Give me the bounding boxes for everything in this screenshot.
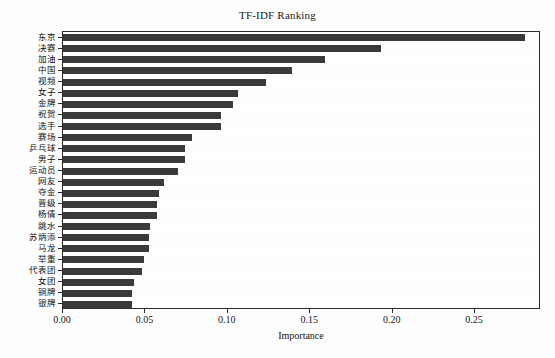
bar-13 xyxy=(63,168,178,175)
y-tick-label: 祝贺 xyxy=(38,109,56,119)
bar-fill xyxy=(63,301,132,308)
bar-fill xyxy=(63,134,192,141)
bar-fill xyxy=(63,179,164,186)
bar-6 xyxy=(63,90,238,97)
y-tick-label: 举重 xyxy=(38,254,56,264)
bar-fill xyxy=(63,290,132,297)
bar-fill xyxy=(63,279,134,286)
x-tick-mark xyxy=(474,309,475,313)
bar-15 xyxy=(63,190,159,197)
bar-fill xyxy=(63,67,292,74)
y-tick-label: 加油 xyxy=(38,54,56,64)
y-tick-label: 马龙 xyxy=(38,243,56,253)
x-axis-label: Importance xyxy=(62,330,540,341)
bar-fill xyxy=(63,168,178,175)
bar-20 xyxy=(63,245,149,252)
bar-fill xyxy=(63,190,159,197)
bar-fill xyxy=(63,34,525,41)
y-tick-label: 东京 xyxy=(38,32,56,42)
y-tick-label: 金牌 xyxy=(38,98,56,108)
x-tick-mark xyxy=(144,309,145,313)
plot-area xyxy=(62,31,540,309)
x-tick-mark xyxy=(392,309,393,313)
bar-22 xyxy=(63,268,142,275)
bar-fill xyxy=(63,223,150,230)
bar-fill xyxy=(63,101,233,108)
bar-fill xyxy=(63,234,149,241)
bar-23 xyxy=(63,279,134,286)
y-tick-label: 乒乓球 xyxy=(29,143,56,153)
y-tick-label: 运动员 xyxy=(29,165,56,175)
bar-7 xyxy=(63,101,233,108)
bar-19 xyxy=(63,234,149,241)
y-tick-label: 铜牌 xyxy=(38,287,56,297)
bar-1 xyxy=(63,34,525,41)
y-tick-label: 银牌 xyxy=(38,298,56,308)
y-axis-labels: 东京决赛加油中国视频女子金牌祝贺选手赛场乒乓球男子运动员网友夺金晋级杨倩跳水苏炳… xyxy=(0,31,62,309)
bar-fill xyxy=(63,212,157,219)
bar-16 xyxy=(63,201,157,208)
y-tick-label: 夺金 xyxy=(38,187,56,197)
chart-title: TF-IDF Ranking xyxy=(0,9,555,21)
x-tick-label: 0.10 xyxy=(218,314,236,325)
bar-4 xyxy=(63,67,292,74)
bar-fill xyxy=(63,90,238,97)
bar-series xyxy=(63,32,539,308)
y-tick-label: 杨倩 xyxy=(38,209,56,219)
bar-fill xyxy=(63,256,144,263)
bar-fill xyxy=(63,245,149,252)
bar-2 xyxy=(63,45,381,52)
y-tick-label: 视频 xyxy=(38,76,56,86)
x-tick-label: 0.20 xyxy=(383,314,401,325)
x-tick-label: 0.15 xyxy=(300,314,318,325)
bar-fill xyxy=(63,112,221,119)
bar-fill xyxy=(63,45,381,52)
y-tick-label: 网友 xyxy=(38,176,56,186)
bar-25 xyxy=(63,301,132,308)
y-tick-label: 中国 xyxy=(38,65,56,75)
bar-18 xyxy=(63,223,150,230)
bar-fill xyxy=(63,145,185,152)
y-tick-label: 晋级 xyxy=(38,198,56,208)
x-tick-label: 0.00 xyxy=(53,314,71,325)
bar-fill xyxy=(63,156,185,163)
y-tick-label: 苏炳添 xyxy=(29,232,56,242)
bar-3 xyxy=(63,56,325,63)
y-tick-label: 选手 xyxy=(38,121,56,131)
y-tick-label: 女团 xyxy=(38,276,56,286)
x-tick-mark xyxy=(309,309,310,313)
x-tick-mark xyxy=(62,309,63,313)
bar-fill xyxy=(63,201,157,208)
bar-21 xyxy=(63,256,144,263)
y-tick-label: 跳水 xyxy=(38,221,56,231)
bar-fill xyxy=(63,79,266,86)
y-tick-label: 男子 xyxy=(38,154,56,164)
chart-figure: TF-IDF Ranking 东京决赛加油中国视频女子金牌祝贺选手赛场乒乓球男子… xyxy=(0,0,555,358)
bar-24 xyxy=(63,290,132,297)
bar-fill xyxy=(63,268,142,275)
y-tick-label: 决赛 xyxy=(38,43,56,53)
bar-fill xyxy=(63,123,221,130)
bar-12 xyxy=(63,156,185,163)
bar-5 xyxy=(63,79,266,86)
y-tick-label: 代表团 xyxy=(29,265,56,275)
bar-9 xyxy=(63,123,221,130)
x-tick-mark xyxy=(227,309,228,313)
y-tick-label: 赛场 xyxy=(38,132,56,142)
y-tick-label: 女子 xyxy=(38,87,56,97)
bar-14 xyxy=(63,179,164,186)
bar-11 xyxy=(63,145,185,152)
x-tick-label: 0.25 xyxy=(465,314,483,325)
bar-fill xyxy=(63,56,325,63)
bar-8 xyxy=(63,112,221,119)
bar-17 xyxy=(63,212,157,219)
bar-10 xyxy=(63,134,192,141)
x-tick-label: 0.05 xyxy=(136,314,154,325)
